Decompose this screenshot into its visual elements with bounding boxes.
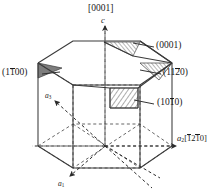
plane-1010-hatch <box>110 88 138 108</box>
hcp-unit-cell-figure: [0001] c (0001) (1120) (1100) (1010) a3 … <box>0 0 215 196</box>
a1-axis-line <box>70 146 105 176</box>
leader-lines-group <box>42 43 161 104</box>
plane-1120-post: 0) <box>180 67 188 77</box>
plane-1100-overbar-digit: 1 <box>10 68 15 78</box>
plane-1010-post: 0) <box>174 97 182 107</box>
plane-1100-post: 00) <box>15 67 28 77</box>
label-axis-a2: a2[1210] <box>177 134 207 144</box>
axis-a1-subscript: 1 <box>62 182 65 188</box>
axis-a2-overbar-digit-2: 1 <box>195 134 199 143</box>
plane-1100-pre: (1 <box>2 67 10 77</box>
label-basal-plane-0001: (0001) <box>156 41 181 51</box>
label-c-axis: c <box>101 16 105 25</box>
plane-1010-overbar-digit: 1 <box>170 98 175 108</box>
label-plane-1120: (1120) <box>163 68 188 78</box>
label-c-direction-index: [0001] <box>88 4 113 14</box>
a1-axis-extension <box>105 146 160 178</box>
label-axis-a3: a3 <box>45 92 51 100</box>
label-plane-1100: (1100) <box>2 68 27 78</box>
bottom-hexagon-front <box>38 146 172 168</box>
axis-a3-subscript: 3 <box>49 94 52 100</box>
label-axis-a1: a1 <box>58 180 64 188</box>
plane-1120-overbar-digit: 2 <box>175 68 180 78</box>
plane-1120-pre: (11 <box>163 67 175 77</box>
basal-plane-digits: 0001 <box>159 40 178 50</box>
axis-a2-bracket-close: ] <box>204 133 207 143</box>
a3-axis-line <box>55 101 105 146</box>
plane-1010-pre: (10 <box>157 97 170 107</box>
a3-axis-extension <box>105 146 152 188</box>
basal-plane-close: ) <box>178 40 181 50</box>
label-plane-1010: (1010) <box>157 98 182 108</box>
axis-a2-overbar-digit-1: 1 <box>187 134 191 143</box>
hcp-diagram-canvas <box>0 0 215 196</box>
